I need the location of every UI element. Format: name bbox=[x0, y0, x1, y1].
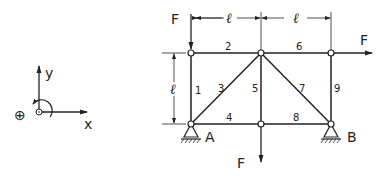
member-label-8: 8 bbox=[293, 112, 299, 123]
node-top-right bbox=[328, 50, 334, 56]
member-label-9: 9 bbox=[334, 83, 340, 94]
member-label-7: 7 bbox=[299, 83, 305, 94]
member-label-2: 2 bbox=[225, 41, 231, 52]
support-label-b: B bbox=[347, 129, 357, 145]
member-label-1: 1 bbox=[195, 85, 201, 96]
coordinate-system: y x ⊕ bbox=[14, 65, 92, 132]
load-label-bottom-middle: F bbox=[237, 155, 245, 171]
support-label-a: A bbox=[205, 129, 215, 145]
y-axis-label: y bbox=[45, 65, 53, 81]
member-label-5: 5 bbox=[252, 83, 258, 94]
truss-members bbox=[191, 53, 331, 124]
member-label-4: 4 bbox=[226, 112, 232, 123]
node-top-middle bbox=[258, 50, 264, 56]
member-label-6: 6 bbox=[296, 41, 302, 52]
dimension-vertical: ℓ bbox=[170, 81, 176, 97]
rotation-arrow-icon bbox=[33, 100, 52, 117]
load-label-top-left: F bbox=[171, 11, 179, 27]
node-bottom-middle bbox=[258, 121, 264, 127]
x-axis-label: x bbox=[84, 116, 92, 132]
dimension-horizontal-2: ℓ bbox=[293, 10, 299, 26]
load-label-top-right: F bbox=[360, 32, 368, 48]
dimension-horizontal-1: ℓ bbox=[226, 10, 232, 26]
node-top-left bbox=[188, 50, 194, 56]
rotation-sign-icon: ⊕ bbox=[14, 107, 26, 123]
member-label-3: 3 bbox=[218, 83, 224, 94]
